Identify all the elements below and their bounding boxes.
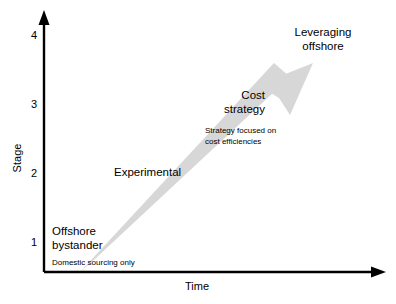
- stage-label-line: Leveraging: [283, 26, 363, 40]
- stage-label-line: Cost: [185, 89, 265, 103]
- stage-label-line: Offshore: [52, 225, 103, 239]
- y-tick-label-3: 3: [23, 99, 37, 110]
- stage-label-leveraging-offshore: Leveraging offshore: [283, 26, 363, 53]
- stage-label-offshore-bystander: Offshore bystander: [52, 225, 103, 252]
- y-tick-label-2: 2: [23, 168, 37, 179]
- y-axis-title: Stage: [11, 133, 23, 183]
- stage-label-line: offshore: [283, 40, 363, 54]
- caption-cost-efficiencies: Strategy focused on cost efficiencies: [205, 126, 276, 147]
- offshore-maturity-diagram: 4 3 2 1 Stage Time Offshore bystander Do…: [0, 0, 396, 304]
- stage-label-line: Experimental: [114, 166, 181, 180]
- y-tick-label-4: 4: [23, 30, 37, 41]
- caption-domestic-sourcing: Domestic sourcing only: [52, 258, 135, 269]
- stage-label-cost-strategy: Cost strategy: [185, 89, 265, 116]
- y-tick-label-1: 1: [23, 237, 37, 248]
- x-axis-title: Time: [185, 280, 209, 292]
- y-axis: [39, 10, 50, 272]
- caption-line: cost efficiencies: [205, 137, 276, 148]
- stage-label-line: strategy: [185, 103, 265, 117]
- caption-line: Strategy focused on: [205, 126, 276, 137]
- stage-label-experimental: Experimental: [114, 166, 181, 180]
- stage-label-line: bystander: [52, 239, 103, 253]
